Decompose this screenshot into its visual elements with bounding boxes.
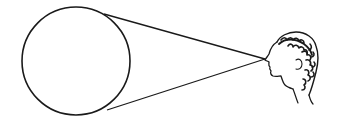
tangent-line-bottom — [107, 59, 265, 110]
profile-head-icon — [265, 32, 318, 104]
viewed-circle — [22, 7, 130, 115]
tangent-line-top — [104, 14, 265, 59]
visual-angle-diagram — [0, 0, 340, 120]
